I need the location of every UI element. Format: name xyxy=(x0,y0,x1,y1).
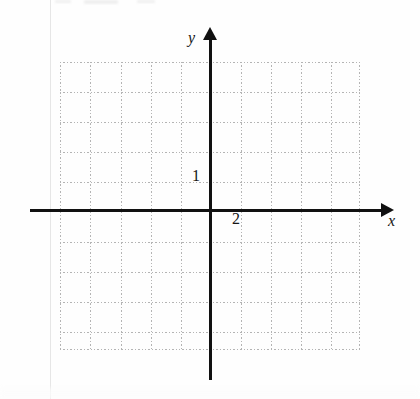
y-axis-tick-label-1: 1 xyxy=(192,168,200,184)
y-axis-line xyxy=(209,36,212,380)
x-axis-label: x xyxy=(388,213,395,229)
x-axis-line xyxy=(30,209,385,212)
scan-artifact-bottom-edge xyxy=(0,388,420,399)
x-axis-tick-label-2: 2 xyxy=(232,211,240,227)
coordinate-plane: y x 1 2 xyxy=(0,0,420,399)
y-axis-label: y xyxy=(188,30,195,46)
y-axis-arrow-icon xyxy=(203,27,217,40)
figure-canvas: y x 1 2 xyxy=(0,0,420,399)
